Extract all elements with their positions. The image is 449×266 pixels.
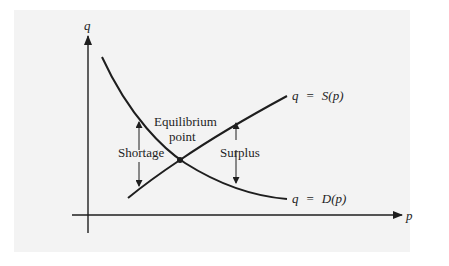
shortage-label: Shortage: [118, 145, 164, 160]
surplus-label: Surplus: [220, 145, 260, 160]
equilibrium-point-marker: [177, 157, 183, 163]
x-axis-label: p: [405, 208, 413, 223]
equilibrium-label-line1: Equilibrium: [154, 114, 217, 129]
supply-demand-diagram: q p Equilibrium point Shortage Surplus q…: [0, 0, 449, 266]
demand-curve-label: q = D(p): [292, 189, 346, 206]
equilibrium-label-line2: point: [169, 129, 196, 144]
y-axis-label: q: [84, 18, 91, 33]
supply-curve-label: q = S(p): [292, 86, 344, 103]
